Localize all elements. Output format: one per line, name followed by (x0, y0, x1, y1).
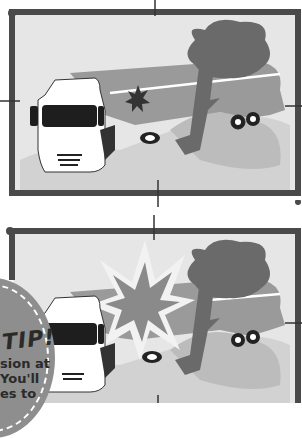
truck-windshield (42, 105, 97, 127)
trailer-hub (235, 337, 241, 343)
tip-text-line: sion at (0, 356, 50, 371)
frame-corner-top-panel (295, 200, 301, 205)
tip-text-line: You'll (0, 371, 39, 386)
truck-mirror-right (98, 324, 104, 344)
truck-mirror-left (30, 106, 38, 126)
original-scene-panel (0, 0, 302, 200)
tip-text-line: es to (0, 386, 36, 401)
trailer-hub (250, 116, 256, 122)
tire-hub (145, 135, 155, 141)
trailer-hub (250, 334, 256, 340)
frame-corner (8, 9, 16, 17)
frame-corner (6, 227, 14, 235)
trailer-hub (235, 119, 241, 125)
tire-hub (147, 354, 157, 360)
truck-mirror-right (98, 106, 104, 126)
